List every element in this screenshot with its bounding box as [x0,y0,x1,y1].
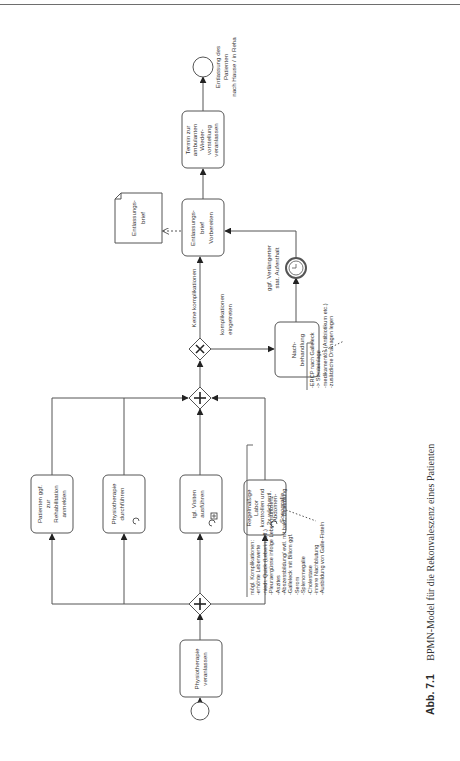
flow-timer-to-entlassungsbrief [225,231,296,258]
end-event-label: Entlassung desPatientennach Hause / in R… [214,37,237,97]
association-labor-annotation [286,510,316,521]
flow-reha-to-join [52,398,188,475]
bpmn-diagram: Physiotherapieveranlassen Patienten ggf.… [0,0,460,761]
flow-label-no-complications: Keine komplikationen [190,268,197,327]
task-physio-durchfuehren-label: Physiotherapiedurchführen [110,483,125,524]
exclusive-decision-gateway [189,338,211,360]
task-labor-label: RegelmäßigeLaborkontrollen und2x wöchent… [245,488,285,527]
subprocess-marker-icon [211,513,217,519]
flow-split-left [52,534,190,604]
timer-event [286,258,306,278]
start-event [191,702,209,720]
figure-number: Abb. 7.1 [424,674,436,715]
flow-label-complications: komplikationeneingetreten [218,293,233,335]
parallel-split-gateway [189,593,211,615]
annotation-treatment: -ERCP nach Galleleck -> Stenteinlage -me… [309,302,334,388]
timer-event-label: ggf. Verlängerterstat. Aufenthalt [265,245,280,291]
end-event [193,57,213,77]
figure-caption: Abb. 7.1 BPMN-Model für die Rekonvalesze… [420,444,437,715]
task-visiten-label: tgl. Visitenausführen [190,489,205,518]
figure-title: BPMN-Model für die Rekonvaleszenz eines … [425,444,436,661]
flow-labor-to-join [212,398,265,480]
task-physio-veranlassen-label: Physiotherapieveranlassen [193,648,208,689]
parallel-join-gateway [189,387,211,409]
